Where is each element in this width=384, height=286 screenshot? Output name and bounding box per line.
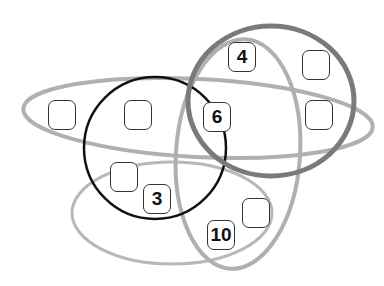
box-lower-right[interactable] xyxy=(242,198,270,228)
box-top-right[interactable] xyxy=(302,50,330,80)
box-left-2[interactable] xyxy=(124,100,152,130)
box-6[interactable]: 6 xyxy=(203,102,231,132)
venn-diagram xyxy=(0,0,384,286)
box-4[interactable]: 4 xyxy=(228,42,256,72)
box-mid-right[interactable] xyxy=(305,100,333,130)
box-lower-left[interactable] xyxy=(110,162,138,192)
box-10[interactable]: 10 xyxy=(207,220,235,250)
box-3[interactable]: 3 xyxy=(143,184,171,214)
box-left-1[interactable] xyxy=(48,100,76,130)
